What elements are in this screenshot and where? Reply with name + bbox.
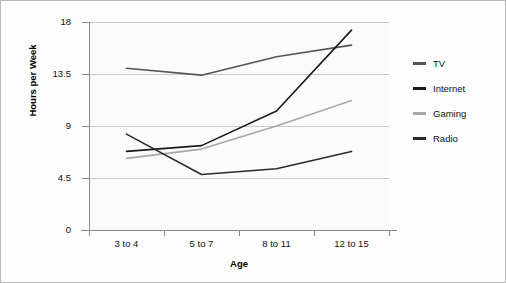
legend-label: Internet — [433, 84, 465, 94]
legend-item-tv[interactable]: TV — [413, 51, 503, 76]
y-axis-title: Hours per Week — [27, 26, 38, 136]
legend-label: TV — [433, 59, 445, 69]
x-axis-tick — [164, 230, 165, 236]
y-axis-tick — [82, 74, 89, 75]
legend-swatch-icon — [413, 137, 426, 140]
y-axis-tick — [82, 22, 89, 23]
series-line-internet — [127, 30, 352, 151]
y-axis-tick-label: 9 — [11, 121, 71, 131]
legend-swatch-icon — [413, 87, 426, 90]
x-axis-tick-label: 5 to 7 — [164, 239, 239, 249]
legend-item-internet[interactable]: Internet — [413, 76, 503, 101]
legend-label: Gaming — [433, 109, 466, 119]
legend-item-gaming[interactable]: Gaming — [413, 101, 503, 126]
y-axis-tick-label: 4.5 — [11, 173, 71, 183]
x-axis-tick-label: 8 to 11 — [239, 239, 314, 249]
series-line-gaming — [127, 101, 352, 159]
y-axis-tick-label: 13.5 — [11, 69, 71, 79]
x-axis-tick — [314, 230, 315, 236]
y-axis-tick — [82, 230, 89, 231]
series-lines — [89, 22, 389, 230]
legend-item-radio[interactable]: Radio — [413, 126, 503, 151]
series-line-tv — [127, 45, 352, 75]
chart-figure: 04.5913.518 3 to 45 to 78 to 1112 to 15 … — [0, 0, 506, 283]
y-axis-tick — [82, 126, 89, 127]
y-axis-tick — [82, 178, 89, 179]
y-axis-tick-label: 18 — [11, 17, 71, 27]
legend-swatch-icon — [413, 112, 426, 115]
chart-legend: TVInternetGamingRadio — [413, 51, 503, 151]
x-axis-tick — [89, 230, 90, 236]
x-axis-tick — [389, 230, 390, 236]
legend-label: Radio — [433, 134, 458, 144]
legend-swatch-icon — [413, 62, 426, 65]
x-axis-tick-label: 12 to 15 — [314, 239, 389, 249]
x-axis-title: Age — [89, 258, 389, 269]
y-axis-tick-label: 0 — [11, 225, 71, 235]
x-axis-tick-label: 3 to 4 — [89, 239, 164, 249]
x-axis-tick — [239, 230, 240, 236]
